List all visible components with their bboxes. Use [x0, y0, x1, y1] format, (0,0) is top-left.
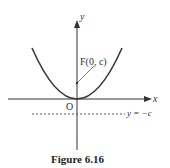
focus-label: F(0, c) [80, 57, 107, 67]
x-axis-arrow [144, 96, 152, 102]
parabola-diagram [0, 0, 170, 168]
origin-label: O [66, 102, 73, 112]
y-axis-label: y [80, 12, 84, 22]
directrix-label: y = −c [127, 109, 152, 118]
figure-caption: Figure 6.16 [0, 153, 155, 165]
x-axis-label: x [153, 94, 157, 104]
focus-leader-line [78, 66, 94, 82]
focus-point [76, 82, 78, 84]
